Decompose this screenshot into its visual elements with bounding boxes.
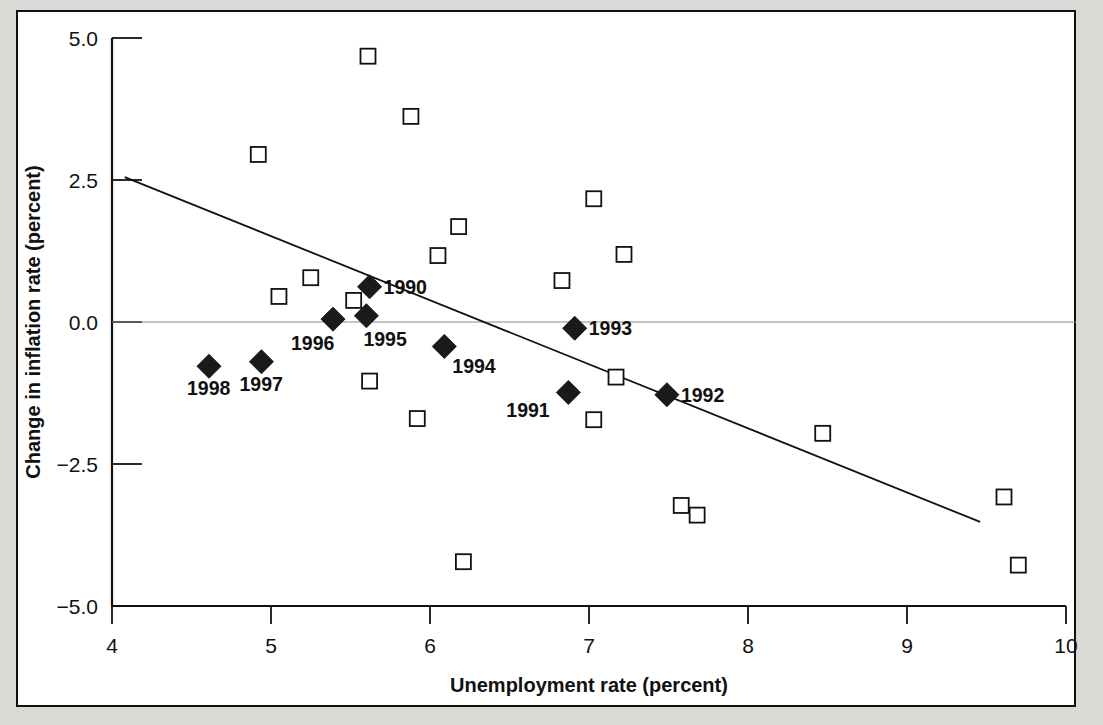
data-point-open-19: [456, 554, 471, 569]
tick-labels: 5.02.50.0−2.5−5.045678910: [57, 27, 1078, 657]
trend-line: [125, 177, 980, 522]
data-point-open-17: [690, 508, 705, 523]
point-label-1997: 1997: [239, 373, 282, 395]
ytick-label-2.5: 2.5: [69, 169, 98, 192]
x-axis-title: Unemployment rate (percent): [450, 674, 728, 696]
xtick-label-5: 5: [265, 634, 277, 657]
data-point-open-5: [616, 247, 631, 262]
xtick-label-9: 9: [901, 634, 913, 657]
point-label-1993: 1993: [589, 317, 633, 339]
data-point-open-4: [451, 219, 466, 234]
chart-canvas: 199019911992199319941995199619971998 5.0…: [0, 0, 1103, 725]
xtick-label-8: 8: [742, 634, 754, 657]
y-axis-title: Change in inflation rate (percent): [22, 165, 44, 478]
xtick-label-10: 10: [1054, 634, 1077, 657]
point-label-1996: 1996: [291, 332, 335, 354]
point-labels: 199019911992199319941995199619971998: [187, 276, 724, 422]
data-point-open-10: [271, 289, 286, 304]
axis-titles: Unemployment rate (percent)Change in inf…: [22, 165, 728, 696]
data-point-1991: [556, 380, 580, 404]
data-point-open-1: [403, 109, 418, 124]
xtick-label-4: 4: [106, 634, 118, 657]
xtick-label-7: 7: [583, 634, 595, 657]
data-point-open-6: [430, 248, 445, 263]
point-label-1998: 1998: [187, 377, 231, 399]
data-point-1992: [655, 383, 679, 407]
chart-page: 199019911992199319941995199619971998 5.0…: [0, 0, 1103, 725]
point-label-1992: 1992: [681, 384, 725, 406]
data-point-open-16: [674, 498, 689, 513]
point-label-1991: 1991: [506, 399, 550, 421]
point-label-1995: 1995: [363, 328, 407, 350]
point-label-1990: 1990: [384, 276, 428, 298]
regression-line: [125, 177, 980, 522]
point-label-1994: 1994: [452, 355, 496, 377]
data-point-open-11: [362, 374, 377, 389]
data-point-open-3: [586, 191, 601, 206]
xtick-label-6: 6: [424, 634, 436, 657]
data-point-1996: [321, 307, 345, 331]
data-point-open-15: [815, 426, 830, 441]
data-point-open-20: [1011, 558, 1026, 573]
data-point-1998: [197, 354, 221, 378]
data-point-1997: [249, 350, 273, 374]
data-point-open-0: [360, 49, 375, 64]
data-point-open-8: [554, 273, 569, 288]
data-point-open-2: [251, 147, 266, 162]
data-point-open-7: [303, 270, 318, 285]
ytick-label-5.0: 5.0: [69, 27, 98, 50]
ytick-label-0.0: 0.0: [69, 311, 98, 334]
data-point-1993: [563, 316, 587, 340]
ytick-label-−5.0: −5.0: [57, 595, 98, 618]
data-point-open-13: [410, 411, 425, 426]
ytick-label-−2.5: −2.5: [57, 453, 98, 476]
data-point-open-18: [996, 489, 1011, 504]
data-point-open-14: [586, 412, 601, 427]
data-point-open-12: [609, 370, 624, 385]
data-point-open-9: [346, 293, 361, 308]
scatter-plot: 199019911992199319941995199619971998 5.0…: [0, 0, 1103, 725]
